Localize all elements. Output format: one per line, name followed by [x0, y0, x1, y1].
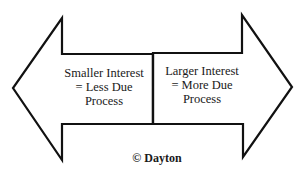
left-arrow-label: Smaller Interest = Less Due Process	[54, 66, 154, 108]
right-arrow-label: Larger Interest = More Due Process	[152, 64, 252, 106]
copyright-notice: © Dayton	[112, 151, 202, 166]
left-label-line-2: = Less Due	[54, 80, 154, 94]
right-label-line-3: Process	[152, 92, 252, 106]
diagram-canvas: Smaller Interest = Less Due Process Larg…	[0, 0, 304, 180]
left-label-line-3: Process	[54, 94, 154, 108]
right-label-line-1: Larger Interest	[152, 64, 252, 78]
right-label-line-2: = More Due	[152, 78, 252, 92]
left-label-line-1: Smaller Interest	[54, 66, 154, 80]
